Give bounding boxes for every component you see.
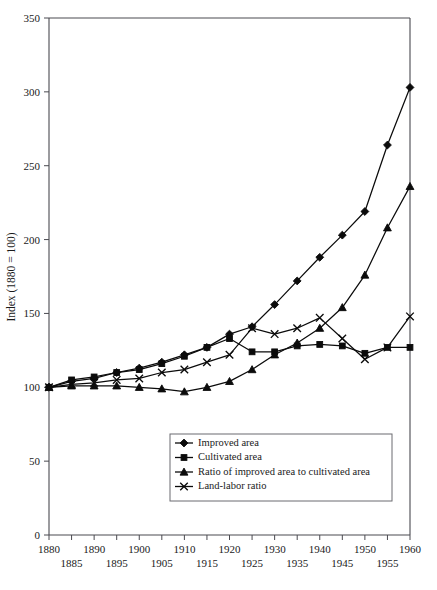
- data-point-triangle: [226, 377, 234, 384]
- series-line: [49, 87, 410, 387]
- data-point-triangle: [406, 182, 414, 189]
- data-point-square: [181, 455, 187, 461]
- x-tick-label: 1955: [376, 557, 399, 569]
- y-axis-ticks: 050100150200250300350: [24, 12, 50, 541]
- data-point-square: [227, 336, 233, 342]
- x-tick-label: 1920: [219, 543, 242, 555]
- x-tick-label: 1930: [264, 543, 287, 555]
- x-tick-label: 1940: [309, 543, 332, 555]
- data-point-square: [249, 349, 255, 355]
- x-axis-ticks: 1880188518901895190019051910191519201925…: [38, 535, 422, 569]
- legend-item-label: Improved area: [198, 437, 259, 448]
- data-point-x: [293, 324, 301, 332]
- x-tick-label: 1905: [151, 557, 174, 569]
- data-point-square: [159, 361, 165, 367]
- x-tick-label: 1890: [83, 543, 106, 555]
- x-tick-label: 1885: [61, 557, 84, 569]
- data-point-x: [226, 351, 234, 359]
- x-tick-label: 1910: [173, 543, 196, 555]
- data-point-diamond: [406, 84, 414, 92]
- legend-item-label: Ratio of improved area to cultivated are…: [198, 466, 370, 477]
- x-tick-label: 1945: [331, 557, 354, 569]
- data-point-triangle: [384, 224, 392, 231]
- chart-legend: Improved areaCultivated areaRatio of imp…: [170, 434, 392, 501]
- x-tick-label: 1900: [128, 543, 151, 555]
- data-point-x: [271, 330, 279, 338]
- chart-series: [45, 84, 414, 395]
- data-point-square: [114, 370, 120, 376]
- data-point-square: [136, 367, 142, 373]
- y-tick-label: 250: [24, 160, 41, 172]
- y-tick-label: 50: [29, 455, 41, 467]
- series-line: [49, 186, 410, 391]
- data-point-triangle: [248, 366, 256, 373]
- y-tick-label: 100: [24, 381, 41, 393]
- legend-item-label: Land-labor ratio: [198, 480, 267, 491]
- legend-item-3[interactable]: Ratio of improved area to cultivated are…: [175, 466, 370, 477]
- x-tick-label: 1935: [286, 557, 309, 569]
- y-tick-label: 350: [24, 12, 41, 24]
- y-tick-label: 150: [24, 307, 41, 319]
- x-tick-label: 1925: [241, 557, 264, 569]
- data-point-x: [203, 358, 211, 366]
- chart-container: 050100150200250300350 188018851890189519…: [0, 0, 437, 590]
- data-point-triangle: [361, 271, 369, 278]
- line-chart: 050100150200250300350 188018851890189519…: [0, 0, 437, 590]
- y-tick-label: 300: [24, 86, 41, 98]
- data-point-x: [316, 314, 324, 322]
- data-point-square: [317, 342, 323, 348]
- legend-item-label: Cultivated area: [198, 451, 262, 462]
- data-point-diamond: [384, 141, 392, 149]
- y-tick-label: 0: [35, 529, 41, 541]
- series-improved-area: [45, 84, 414, 392]
- data-point-square: [407, 345, 413, 351]
- x-tick-label: 1915: [196, 557, 219, 569]
- x-tick-label: 1880: [38, 543, 61, 555]
- data-point-square: [181, 353, 187, 359]
- x-tick-label: 1960: [399, 543, 422, 555]
- data-point-square: [204, 345, 210, 351]
- x-tick-label: 1895: [106, 557, 129, 569]
- data-point-x: [339, 335, 347, 343]
- data-point-square: [339, 343, 345, 349]
- y-tick-label: 200: [24, 234, 41, 246]
- series-ratio-of-improved-area-to-cultivated-area: [45, 182, 414, 394]
- data-point-square: [362, 350, 368, 356]
- y-axis-title: Index (1880 = 100): [5, 232, 18, 321]
- x-tick-label: 1950: [354, 543, 377, 555]
- data-point-square: [91, 374, 97, 380]
